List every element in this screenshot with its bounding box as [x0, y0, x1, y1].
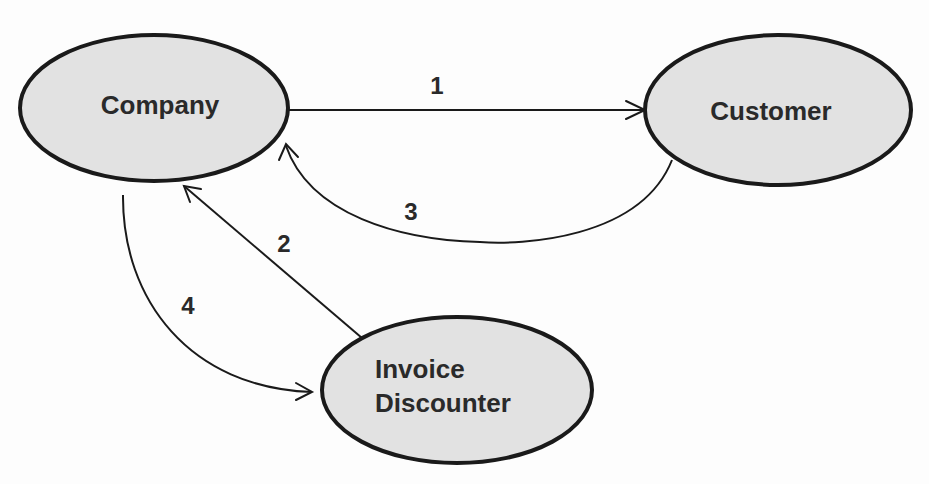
- diagram-canvas: 1 3 2 4 Company Customer: [0, 0, 929, 484]
- diagram-svg: 1 3 2 4 Company Customer: [0, 0, 929, 484]
- edge-company-to-discounter: 4: [123, 195, 312, 400]
- edge-company-to-customer: 1: [288, 72, 645, 119]
- edge-label-2: 2: [277, 230, 290, 257]
- node-company: Company: [20, 35, 288, 181]
- edge-label-1: 1: [430, 72, 443, 99]
- node-invoice-discounter: Invoice Discounter: [322, 317, 592, 463]
- node-label-discounter: Discounter: [375, 388, 511, 418]
- node-label-customer: Customer: [710, 96, 831, 126]
- edge-discounter-to-company: 2: [184, 186, 362, 338]
- edge-customer-to-company: 3: [279, 144, 672, 243]
- node-label-company: Company: [101, 90, 220, 120]
- edge-label-4: 4: [181, 292, 195, 319]
- edge-label-3: 3: [404, 198, 417, 225]
- node-label-invoice: Invoice: [375, 354, 465, 384]
- node-customer: Customer: [645, 35, 911, 185]
